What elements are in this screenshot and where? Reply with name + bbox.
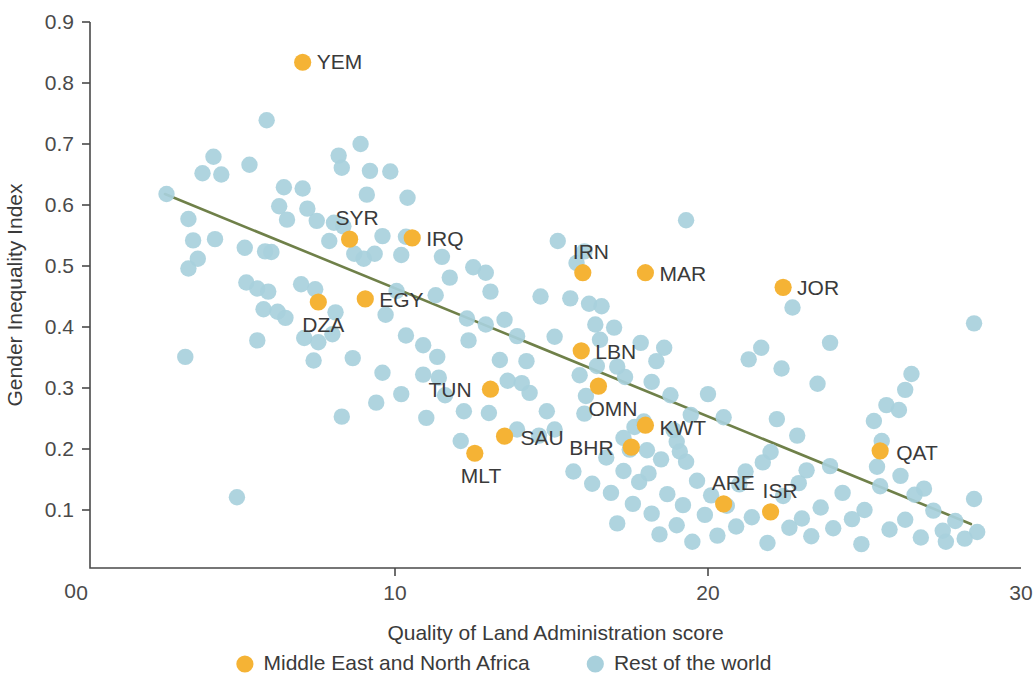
data-point-rest-of-world [675,497,691,513]
data-point-rest-of-world [478,316,494,332]
data-point-rest-of-world [903,366,919,382]
data-point-rest-of-world [434,249,450,265]
data-point-rest-of-world [263,244,279,260]
data-point-rest-of-world [625,496,641,512]
y-axis-tick-label-0.2: 0.2 [45,437,74,460]
data-point-rest-of-world [966,315,982,331]
legend-swatch-rest [587,655,604,672]
data-point-rest-of-world [659,486,675,502]
data-point-rest-of-world [258,112,274,128]
data-point-rest-of-world [769,411,785,427]
data-point-rest-of-world [180,260,196,276]
x-axis-tick-label-20: 20 [696,581,719,604]
data-point-rest-of-world [550,233,566,249]
data-point-rest-of-world [669,517,685,533]
point-label-mlt: MLT [461,464,502,487]
data-point-rest-of-world [897,382,913,398]
data-point-rest-of-world [356,250,372,266]
data-point-rest-of-world [825,520,841,536]
data-point-rest-of-world [279,211,295,227]
point-label-irn: IRN [573,240,609,263]
data-point-rest-of-world [309,213,325,229]
data-point-rest-of-world [352,136,368,152]
data-point-rest-of-world [700,386,716,402]
point-label-qat: QAT [896,441,938,464]
data-point-qat [872,442,889,459]
data-point-rest-of-world [643,374,659,390]
data-point-rest-of-world [603,485,619,501]
data-point-rest-of-world [809,376,825,392]
data-point-rest-of-world [478,265,494,281]
data-point-rest-of-world [509,328,525,344]
data-point-rest-of-world [456,403,472,419]
data-point-rest-of-world [393,386,409,402]
data-point-rest-of-world [906,487,922,503]
data-point-rest-of-world [442,269,458,285]
data-point-rest-of-world [305,352,321,368]
data-point-mlt [466,445,483,462]
data-point-rest-of-world [651,526,667,542]
data-point-rest-of-world [803,528,819,544]
point-label-dza: DZA [302,313,344,336]
data-point-rest-of-world [276,179,292,195]
y-axis-tick-label-0.3: 0.3 [45,376,74,399]
data-point-rest-of-world [207,231,223,247]
data-point-rest-of-world [678,212,694,228]
data-point-rest-of-world [755,454,771,470]
data-point-rest-of-world [229,489,245,505]
data-point-rest-of-world [684,534,700,550]
data-point-rest-of-world [715,409,731,425]
data-point-rest-of-world [177,349,193,365]
data-point-rest-of-world [260,283,276,299]
x-axis-tick-label-10: 10 [383,581,406,604]
data-point-rest-of-world [241,157,257,173]
data-point-rest-of-world [956,530,972,546]
data-point-rest-of-world [834,485,850,501]
point-label-irq: IRQ [426,227,463,250]
data-point-isr [762,503,779,520]
point-label-isr: ISR [763,479,798,502]
data-point-rest-of-world [459,310,475,326]
data-point-rest-of-world [398,327,414,343]
data-point-rest-of-world [562,290,578,306]
data-point-rest-of-world [158,186,174,202]
data-point-rest-of-world [740,351,756,367]
point-label-egy: EGY [379,288,423,311]
data-point-rest-of-world [518,353,534,369]
data-point-rest-of-world [571,367,587,383]
data-point-rest-of-world [773,360,789,376]
data-point-rest-of-world [482,283,498,299]
data-point-rest-of-world [499,372,515,388]
data-point-rest-of-world [255,301,271,317]
legend-swatch-mena [236,655,253,672]
y-axis-title: Gender Inequality Index [3,183,26,406]
y-axis-tick-label-0.8: 0.8 [45,71,74,94]
data-point-rest-of-world [653,451,669,467]
legend-label-mena: Middle East and North Africa [264,651,530,674]
data-point-rest-of-world [643,505,659,521]
data-point-jor [775,279,792,296]
data-point-rest-of-world [615,463,631,479]
data-point-rest-of-world [293,276,309,292]
data-point-rest-of-world [521,385,537,401]
data-point-rest-of-world [180,211,196,227]
data-point-rest-of-world [334,160,350,176]
data-point-rest-of-world [697,507,713,523]
point-label-are: ARE [712,471,755,494]
data-point-rest-of-world [374,228,390,244]
point-label-bhr: BHR [569,436,613,459]
data-point-mar [637,264,654,281]
x-axis-title: Quality of Land Administration score [387,621,723,644]
point-label-yem: YEM [317,50,363,73]
data-point-rest-of-world [897,512,913,528]
data-point-yem [294,54,311,71]
data-point-rest-of-world [399,189,415,205]
data-point-rest-of-world [866,413,882,429]
data-point-rest-of-world [925,502,941,518]
data-point-rest-of-world [532,288,548,304]
data-point-rest-of-world [872,478,888,494]
data-point-irq [404,229,421,246]
data-point-rest-of-world [310,334,326,350]
data-point-irn [574,264,591,281]
point-label-omn: OMN [588,397,637,420]
